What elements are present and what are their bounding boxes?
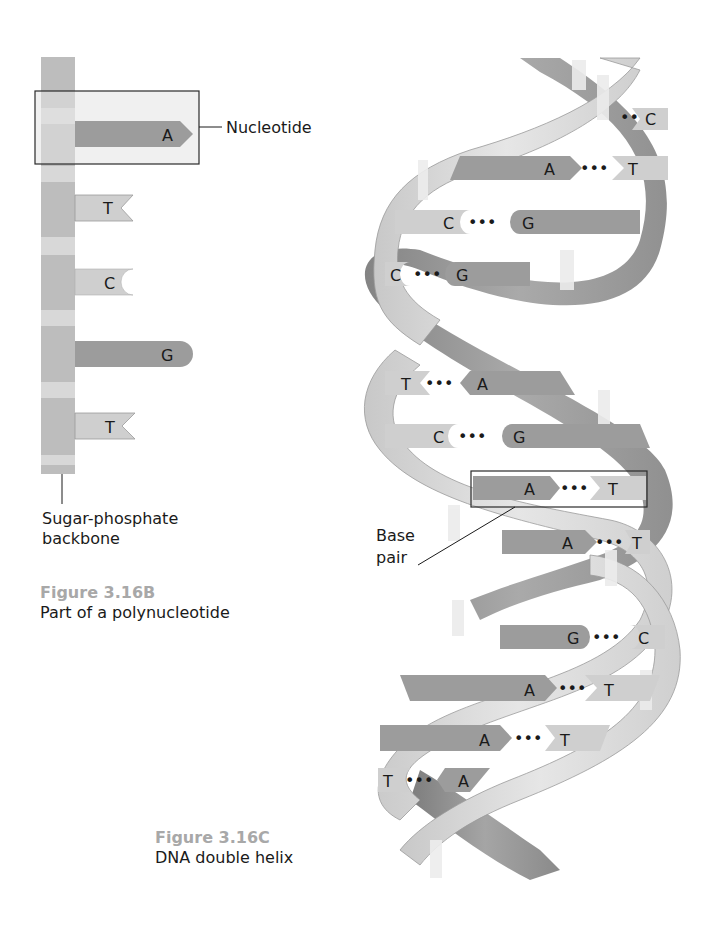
svg-text:A: A (524, 681, 535, 700)
svg-text:G: G (567, 629, 579, 648)
svg-text:G: G (522, 214, 534, 233)
base-pair-row: A ••• T (380, 725, 610, 751)
svg-text:G: G (456, 266, 468, 285)
svg-text:C: C (645, 110, 656, 129)
svg-text:•••: ••• (468, 213, 496, 232)
figure-b-title: Part of a polynucleotide (40, 603, 230, 623)
figure-c-number: Figure 3.16C (155, 828, 293, 848)
polynucleotide-figure: A T C G T (35, 57, 222, 504)
svg-text:A: A (524, 480, 535, 499)
svg-text:A: A (479, 731, 490, 750)
svg-text:•••: ••• (580, 159, 608, 178)
svg-text:T: T (603, 681, 614, 700)
base-pair-row: A ••• T (400, 675, 660, 701)
backbone-label-line2: backbone (42, 529, 178, 549)
base-A: A (75, 121, 193, 147)
figure-b-number: Figure 3.16B (40, 583, 230, 603)
svg-text:C: C (638, 629, 649, 648)
base-pair-label-line1: Base (376, 526, 415, 545)
figure-c-caption: Figure 3.16C DNA double helix (155, 828, 293, 868)
svg-text:A: A (477, 375, 488, 394)
diagram-canvas: A T C G T (0, 0, 717, 925)
svg-text:C: C (390, 266, 401, 285)
svg-text:A: A (458, 772, 469, 791)
svg-text:T: T (631, 534, 642, 553)
double-helix-figure: ••• C A ••• T C ••• G (364, 58, 680, 880)
base-pair-row: G ••• C (500, 625, 665, 649)
svg-text:T: T (104, 418, 115, 437)
svg-text:T: T (102, 199, 113, 218)
svg-text:C: C (433, 428, 444, 447)
base-pair-row: C ••• G (395, 210, 640, 234)
svg-text:C: C (104, 274, 115, 293)
svg-text:T: T (400, 375, 411, 394)
svg-text:•••: ••• (560, 479, 588, 498)
svg-text:T: T (627, 160, 638, 179)
svg-text:•••: ••• (558, 679, 586, 698)
svg-text:G: G (513, 428, 525, 447)
svg-text:•••: ••• (458, 427, 486, 446)
svg-text:A: A (162, 126, 173, 145)
svg-text:•••: ••• (514, 729, 542, 748)
backbone-label: Sugar-phosphate backbone (42, 509, 178, 549)
base-pair-row: C ••• G (385, 424, 650, 448)
svg-text:•••: ••• (595, 533, 623, 552)
base-pair-label-line2: pair (376, 548, 407, 567)
base-pair-row: ••• C (620, 108, 668, 130)
base-T: T (75, 195, 133, 221)
backbone-label-line1: Sugar-phosphate (42, 509, 178, 529)
svg-text:T: T (607, 480, 618, 499)
base-pair-row: T ••• A (385, 371, 575, 395)
base-T-2: T (75, 413, 135, 439)
figure-b-caption: Figure 3.16B Part of a polynucleotide (40, 583, 230, 623)
svg-text:A: A (544, 160, 555, 179)
svg-text:•••: ••• (425, 374, 453, 393)
svg-text:T: T (559, 731, 570, 750)
svg-text:•••: ••• (413, 265, 441, 284)
svg-text:A: A (562, 534, 573, 553)
ribbon-stripes (418, 60, 652, 878)
base-pair-row: A ••• T (450, 156, 668, 180)
svg-text:G: G (161, 346, 173, 365)
base-G: G (75, 341, 193, 367)
nucleotide-label: Nucleotide (226, 118, 312, 137)
figure-c-title: DNA double helix (155, 848, 293, 868)
svg-text:C: C (443, 214, 454, 233)
svg-text:•••: ••• (405, 771, 433, 790)
base-C: C (75, 269, 133, 295)
svg-text:T: T (382, 772, 393, 791)
svg-text:•••: ••• (592, 628, 620, 647)
